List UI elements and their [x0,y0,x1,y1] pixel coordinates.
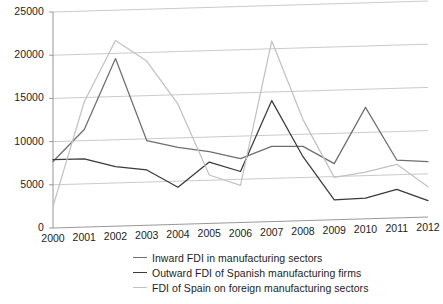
legend-label-2: Outward FDI of Spanish manufacturing fir… [152,267,361,279]
series-lines [53,40,428,206]
axis-lines [49,12,53,228]
y-tick-label-0: 0 [0,221,44,233]
legend-item-2[interactable]: Outward FDI of Spanish manufacturing fir… [133,265,423,280]
series-line-1 [53,59,428,164]
plot-area: 0500010000150002000025000 [0,0,430,238]
chart-legend: Inward FDI in manufacturing sectorsOutwa… [133,250,423,295]
y-tick-label-25000: 25000 [0,5,44,17]
legend-label-3: FDI of Spain on foreign manufacturing se… [152,282,368,294]
legend-item-1[interactable]: Inward FDI in manufacturing sectors [133,250,423,265]
gridlines [53,1,428,228]
y-tick-label-20000: 20000 [0,48,44,60]
gridline-10000 [53,131,428,142]
legend-swatch-icon-1 [133,257,147,258]
plot-svg [0,0,430,238]
legend-swatch-icon-3 [133,287,147,288]
gridline-15000 [53,87,428,98]
gridline-0 [53,217,428,228]
legend-swatch-icon-2 [133,272,147,273]
legend-item-3[interactable]: FDI of Spain on foreign manufacturing se… [133,280,423,295]
y-tick-label-10000: 10000 [0,135,44,147]
y-tick-label-5000: 5000 [0,178,44,190]
gridline-25000 [53,1,428,12]
y-tick-label-15000: 15000 [0,91,44,103]
legend-label-1: Inward FDI in manufacturing sectors [152,252,322,264]
series-line-3 [53,40,428,206]
